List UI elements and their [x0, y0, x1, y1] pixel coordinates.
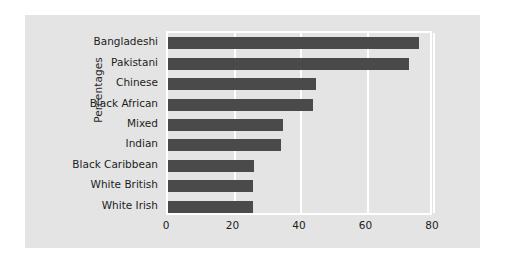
x-axis-tick-label: 60: [346, 219, 386, 231]
y-axis-tick-label: White Irish: [102, 198, 158, 212]
bar: [168, 160, 254, 172]
y-axis-tick-label: Chinese: [116, 75, 158, 89]
x-axis-tick-label: 40: [279, 219, 319, 231]
gridline-x-80: [433, 33, 435, 213]
x-axis-tick-label: 80: [412, 219, 452, 231]
bar: [168, 201, 253, 213]
y-axis-tick-label: White British: [91, 177, 158, 191]
bar: [168, 139, 281, 151]
bar: [168, 180, 253, 192]
y-axis-tick-labels: BangladeshiPakistaniChineseBlack African…: [70, 31, 162, 215]
y-axis-tick-label: Pakistani: [111, 55, 158, 69]
bar: [168, 119, 283, 131]
y-axis-tick-label: Bangladeshi: [94, 34, 158, 48]
plot-area: [166, 31, 432, 215]
bar: [168, 78, 316, 90]
y-axis-tick-label: Indian: [126, 136, 158, 150]
bar: [168, 99, 313, 111]
y-axis-tick-label: Mixed: [127, 116, 158, 130]
x-axis-tick-label: 0: [146, 219, 186, 231]
x-axis-tick-labels: 020406080: [166, 219, 432, 235]
bar: [168, 37, 419, 49]
x-axis-tick-label: 20: [213, 219, 253, 231]
y-axis-tick-label: Black African: [90, 96, 158, 110]
bar: [168, 58, 409, 70]
y-axis-tick-label: Black Caribbean: [72, 157, 158, 171]
